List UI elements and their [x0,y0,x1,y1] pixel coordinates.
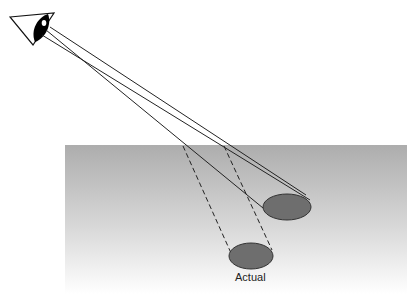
refraction-diagram: Actual [0,0,415,294]
actual-object [229,243,273,269]
eye-icon [10,13,54,45]
apparent-object [263,194,311,220]
diagram-canvas [0,0,415,294]
actual-label: Actual [235,271,266,283]
